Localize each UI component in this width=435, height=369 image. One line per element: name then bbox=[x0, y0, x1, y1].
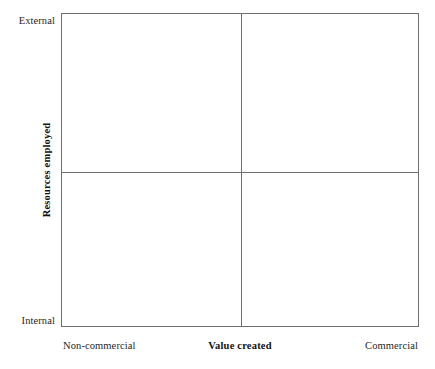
quadrant-top-right[interactable] bbox=[242, 14, 419, 172]
vertical-divider-line bbox=[241, 13, 242, 327]
quadrant-matrix-figure: External Internal Resources employed Non… bbox=[0, 0, 435, 369]
quadrant-bottom-right[interactable] bbox=[242, 173, 419, 327]
horizontal-divider-line bbox=[61, 172, 419, 173]
y-axis-label-internal: Internal bbox=[0, 315, 55, 327]
x-axis-label-commercial: Commercial bbox=[365, 339, 418, 352]
y-axis-label-external: External bbox=[0, 15, 55, 27]
quadrant-top-left[interactable] bbox=[62, 14, 241, 172]
y-axis-title-text: Resources employed bbox=[41, 123, 52, 218]
quadrant-bottom-left[interactable] bbox=[62, 173, 241, 327]
